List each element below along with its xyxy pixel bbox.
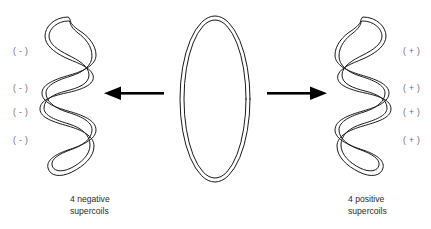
supercoiling-diagram: ( - ) ( - ) ( - ) ( - ) ( + ) ( + ) ( + … [0,0,431,229]
negative-sign-label-4: ( - ) [13,136,28,145]
arrow-to-negative [104,87,164,101]
relaxed-circular-dna [180,16,250,182]
positive-sign-label-3: ( + ) [403,108,420,117]
negative-sign-label-1: ( - ) [13,47,28,56]
arrow-to-positive [267,87,327,101]
negative-supercoils-caption: 4 negative supercoils [70,194,110,217]
positive-sign-label-2: ( + ) [403,84,420,93]
negative-supercoiled-dna [40,17,96,175]
positive-sign-label-1: ( + ) [403,47,420,56]
negative-sign-label-2: ( - ) [13,84,28,93]
positive-supercoils-caption: 4 positive supercoils [348,194,387,217]
positive-sign-label-4: ( + ) [403,136,420,145]
positive-supercoiled-dna [335,17,391,175]
negative-sign-label-3: ( - ) [13,108,28,117]
